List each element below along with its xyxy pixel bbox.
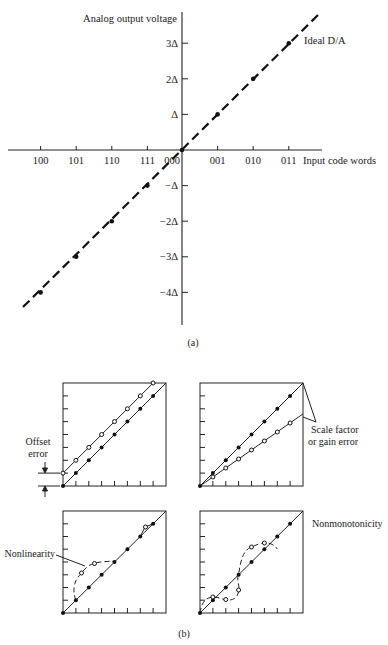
x-tick-label: 110	[104, 155, 119, 166]
panel-nonlinearity: Nonlinearity	[4, 511, 166, 615]
x-tick-label: 101	[68, 155, 84, 166]
annotation-offset-line2: error	[28, 448, 48, 459]
caption-b: (b)	[178, 628, 190, 640]
y-tick-label: 2Δ	[166, 74, 178, 85]
y-tick-label: 3Δ	[166, 38, 178, 49]
x-tick-label: 011	[281, 155, 296, 166]
caption-a: (a)	[187, 337, 198, 349]
x-tick-label: 001	[210, 155, 226, 166]
y-tick-label: −2Δ	[160, 216, 178, 227]
annotation-gain-line1: Scale factor	[311, 424, 359, 435]
annotation-gain-line2: or gain error	[308, 436, 359, 447]
x-axis-label: Input code words	[303, 155, 376, 166]
panel-offset-error: Offset error	[26, 381, 166, 497]
x-tick-label: 111	[140, 155, 155, 166]
y-tick-label: −3Δ	[160, 251, 178, 262]
line-label-ideal: Ideal D/A	[304, 35, 346, 46]
x-tick-label: 100	[33, 155, 49, 166]
offset-dimension-arrows	[38, 462, 60, 497]
figure-a: Analog output voltage Input code words I…	[8, 12, 376, 349]
panel-nonmonotonicity: Nonmonotonicity	[198, 511, 383, 615]
annotation-nonmonotonicity: Nonmonotonicity	[312, 518, 383, 529]
y-tick-label: −4Δ	[160, 287, 178, 298]
annotation-offset-line1: Offset	[26, 436, 51, 447]
panel-gain-error: Scale factor or gain error	[198, 383, 359, 488]
annotation-nonlinearity: Nonlinearity	[4, 548, 55, 559]
x-ticks	[41, 146, 289, 150]
y-axis-label: Analog output voltage	[83, 13, 177, 24]
y-tick-label: −Δ	[165, 180, 178, 191]
nonlinearity-pointer	[56, 555, 85, 566]
x-tick-label: 010	[245, 155, 261, 166]
gain-annotation-pointer	[303, 383, 316, 422]
y-ticks	[182, 43, 188, 292]
y-tick-label: Δ	[171, 109, 178, 120]
figure-canvas: Analog output voltage Input code words I…	[0, 0, 388, 645]
